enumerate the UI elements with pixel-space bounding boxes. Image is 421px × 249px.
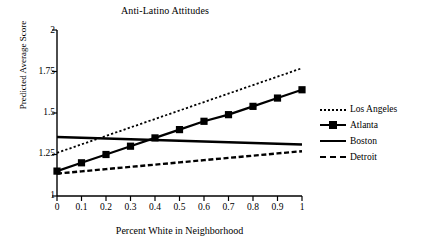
x-tick-label: 0.3: [118, 203, 144, 213]
legend-swatch-dashed-icon: [320, 152, 346, 163]
chart-legend: Los Angeles Atlanta Boston Detroit: [320, 101, 397, 165]
x-tick-label: 0.1: [69, 203, 95, 213]
series-line: [57, 151, 302, 173]
legend-swatch-solid-icon: [320, 136, 346, 147]
x-tick-label: 0: [44, 203, 70, 213]
axes: [52, 30, 302, 201]
data-point-marker: [274, 94, 281, 101]
data-point-marker: [200, 118, 207, 125]
legend-item-boston[interactable]: Boston: [320, 133, 397, 149]
x-tick-label: 0.9: [265, 203, 291, 213]
x-tick-label: 0.4: [142, 203, 168, 213]
data-point-marker: [127, 143, 134, 150]
legend-item-atlanta[interactable]: Atlanta: [320, 117, 397, 133]
series-detroit: [57, 151, 302, 173]
x-axis-label: Percent White in Neighborhood: [57, 225, 302, 236]
chart-container: Anti-Latino Attitudes Predicted Average …: [0, 0, 421, 249]
legend-item-detroit[interactable]: Detroit: [320, 149, 397, 165]
legend-label: Atlanta: [350, 120, 378, 131]
x-tick-label: 0.2: [93, 203, 119, 213]
data-series-layer: [53, 68, 305, 175]
x-tick-label: 0.5: [167, 203, 193, 213]
legend-swatch-square-marker-icon: [320, 120, 346, 131]
data-point-marker: [78, 159, 85, 166]
data-point-marker: [176, 126, 183, 133]
series-boston: [57, 137, 302, 144]
x-tick-label: 0.8: [240, 203, 266, 213]
series-line: [57, 137, 302, 144]
data-point-marker: [225, 111, 232, 118]
legend-label: Los Angeles: [350, 104, 397, 115]
data-point-marker: [249, 103, 256, 110]
data-point-marker: [102, 151, 109, 158]
x-tick-label: 0.7: [216, 203, 242, 213]
x-axis-tick-marks: [57, 196, 302, 201]
legend-label: Boston: [350, 136, 377, 147]
data-point-marker: [298, 86, 305, 93]
legend-label: Detroit: [350, 152, 377, 163]
x-tick-label: 1: [289, 203, 315, 213]
x-tick-label: 0.6: [191, 203, 217, 213]
legend-swatch-dotted-icon: [320, 104, 346, 115]
legend-item-los-angeles[interactable]: Los Angeles: [320, 101, 397, 117]
